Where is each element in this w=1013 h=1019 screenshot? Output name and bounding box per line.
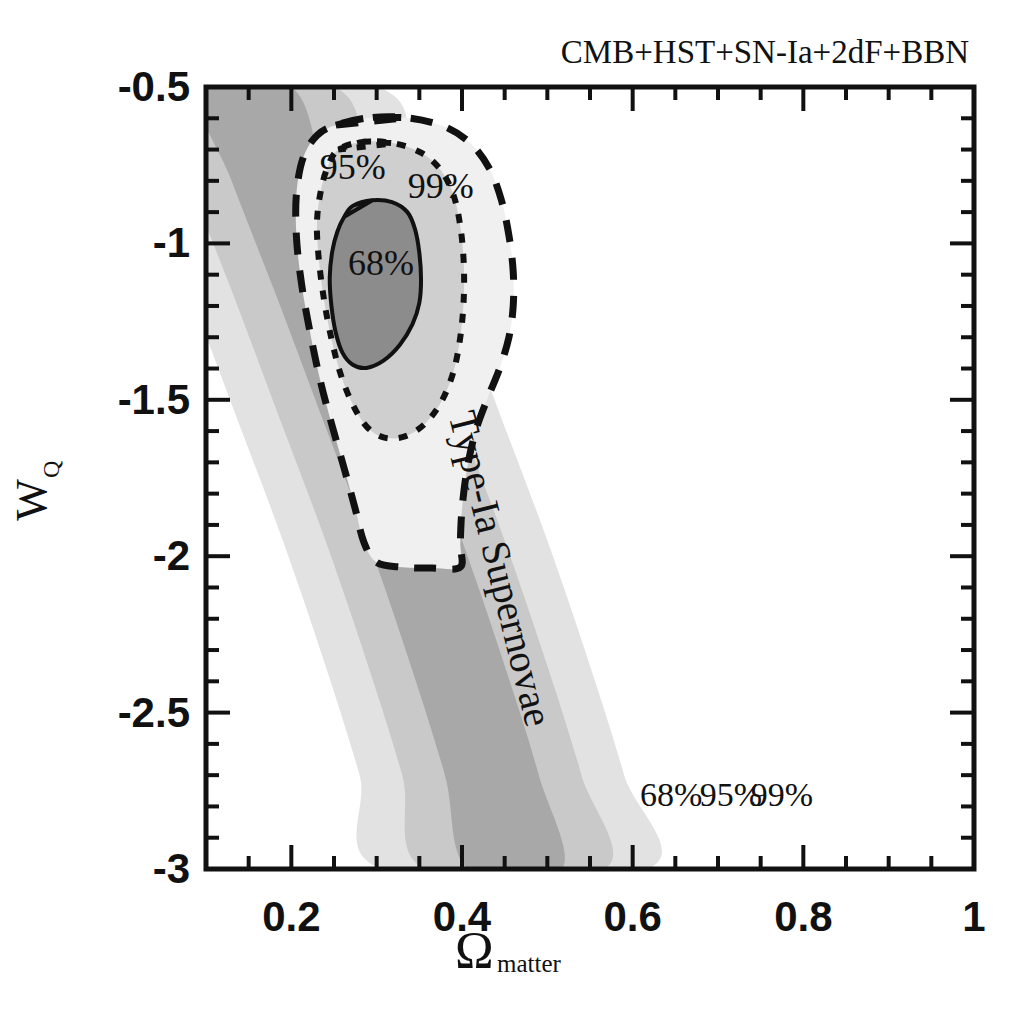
y-tick-label: -1.5 [118, 376, 190, 423]
x-tick-label: 1 [962, 893, 985, 940]
y-tick-label: -3 [153, 845, 190, 892]
y-tick-label: -1 [153, 219, 190, 266]
supernova-band-label-99: 99% [751, 776, 813, 813]
x-tick-label: 0.8 [774, 893, 832, 940]
y-tick-label: -0.5 [118, 63, 190, 110]
joint-contour-label-68: 68% [348, 243, 414, 283]
y-tick-label: -2 [153, 532, 190, 579]
x-tick-label: 0.4 [433, 893, 492, 940]
y-axis-label-symbol: W [7, 479, 56, 521]
contour-plot: CMB+HST+SN-Ia+2dF+BBN Ω matter W Q 0.20.… [0, 0, 1013, 1019]
figure-root: CMB+HST+SN-Ia+2dF+BBN Ω matter W Q 0.20.… [0, 0, 1013, 1019]
joint-contour-label-99: 99% [408, 166, 474, 206]
plot-title: CMB+HST+SN-Ia+2dF+BBN [561, 34, 969, 70]
y-axis-label-subscript: Q [38, 461, 64, 478]
x-axis-label-subscript: matter [497, 950, 562, 977]
x-tick-label: 0.6 [603, 893, 661, 940]
supernova-band-label-68: 68% [640, 776, 702, 813]
x-tick-label: 0.2 [262, 893, 320, 940]
joint-contour-label-95: 95% [320, 147, 386, 187]
y-tick-label: -2.5 [118, 689, 190, 736]
